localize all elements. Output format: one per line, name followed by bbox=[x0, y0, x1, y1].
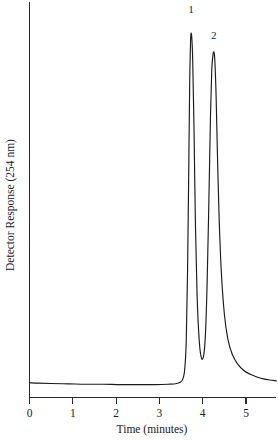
x-tick-label-4: 4 bbox=[200, 407, 206, 419]
x-tick-label-3: 3 bbox=[157, 407, 163, 419]
x-tick-label-1: 1 bbox=[70, 407, 76, 419]
x-axis-title: Time (minutes) bbox=[117, 423, 188, 436]
x-tick-label-0: 0 bbox=[27, 407, 33, 419]
peak-label-1: 1 bbox=[188, 4, 193, 15]
chromatogram-figure: 0 1 2 3 4 5 Time (minutes) Detector Resp… bbox=[0, 0, 278, 441]
peak-label-2: 2 bbox=[211, 30, 216, 41]
chromatogram-plot: 0 1 2 3 4 5 Time (minutes) Detector Resp… bbox=[0, 0, 278, 441]
detector-signal-trace bbox=[30, 33, 277, 385]
x-axis-ticks bbox=[30, 398, 247, 405]
x-tick-label-2: 2 bbox=[113, 407, 119, 419]
x-axis-tick-labels: 0 1 2 3 4 5 bbox=[27, 407, 250, 419]
x-tick-label-5: 5 bbox=[243, 407, 249, 419]
y-axis-title: Detector Response (254 nm) bbox=[4, 139, 17, 271]
